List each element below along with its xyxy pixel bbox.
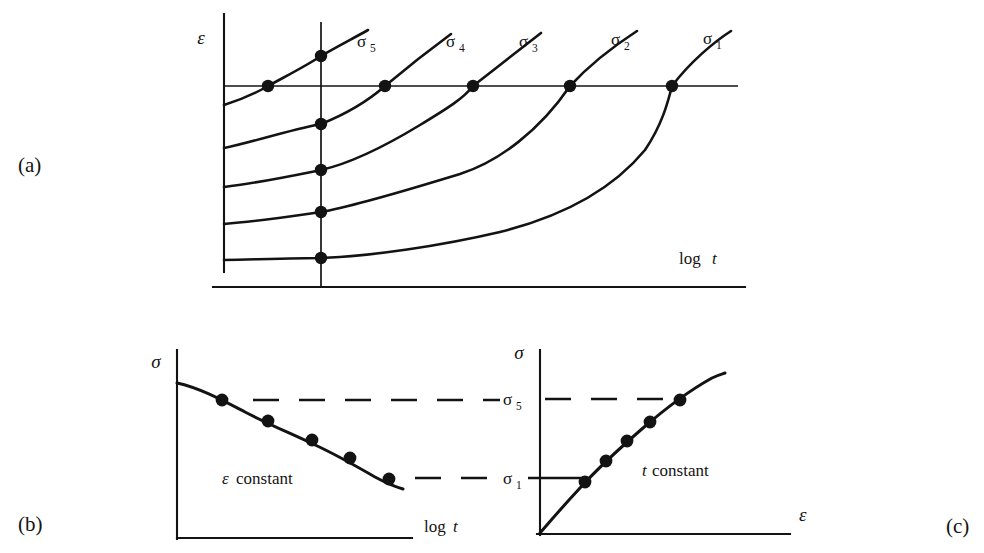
panel-c-marker-sigma3	[621, 435, 634, 448]
panel-c-marker-sigma2	[600, 455, 613, 468]
panel-b-marker-5	[383, 473, 396, 486]
panel-c-y-axis-label: σ	[514, 342, 524, 363]
panel-c-level-label-sigma5-sym: σ	[503, 390, 512, 409]
panel-b-y-axis-label: σ	[151, 351, 161, 372]
panel-b-marker-4	[344, 452, 357, 465]
panel-c-level-label-sigma1-sub: 1	[516, 479, 522, 491]
panel-a-curve-label-sigma1-sym: σ	[703, 29, 712, 48]
panel-b-annotation-text: constant	[236, 469, 293, 488]
panel-b-marker-1	[216, 394, 229, 407]
panel-a-marker-time-sigma4	[315, 118, 327, 130]
panel-a-marker-time-sigma3	[315, 164, 327, 176]
panel-c-annotation-text: constant	[652, 461, 709, 480]
panel-b-annotation-symbol: ε	[222, 469, 229, 488]
panel-c-x-axis-label: ε	[799, 504, 807, 525]
panel-b-marker-3	[306, 434, 319, 447]
panel-a-curve-label-sigma5-sym: σ	[357, 32, 366, 51]
panel-c-level-label-sigma1-sym: σ	[503, 469, 512, 488]
panel-a-curve-label-sigma4-sub: 4	[459, 42, 465, 54]
panel-a-marker-time-sigma2	[315, 206, 327, 218]
panel-a-marker-strain-sigma3	[467, 80, 479, 92]
panel-a-marker-strain-sigma5	[262, 80, 274, 92]
panel-a-marker-time-sigma5	[315, 50, 327, 62]
panel-a-curve-label-sigma3-sub: 3	[532, 42, 538, 54]
figure-root: ε log t σ 5 σ 4 σ 3 σ 2 σ 1 (a)	[0, 0, 984, 553]
panel-a-marker-strain-sigma1	[666, 80, 678, 92]
panel-c-label: (c)	[946, 514, 969, 538]
panel-a-y-axis-label: ε	[197, 27, 205, 48]
panel-a-curve-label-sigma3-sym: σ	[519, 32, 528, 51]
panel-a-curve-label-sigma2-sub: 2	[624, 40, 630, 52]
figure-background	[0, 0, 984, 553]
panel-b-marker-2	[262, 415, 275, 428]
panel-a-marker-strain-sigma2	[564, 80, 576, 92]
panel-c-marker-sigma5	[674, 394, 687, 407]
panel-b-label: (b)	[18, 512, 43, 536]
panel-a-curve-label-sigma5-sub: 5	[370, 42, 376, 54]
panel-a-label: (a)	[18, 153, 41, 177]
panel-c-level-label-sigma5-sub: 5	[516, 400, 522, 412]
panel-a-curve-label-sigma4-sym: σ	[446, 32, 455, 51]
panel-b-x-axis-label-prefix: log	[424, 517, 446, 536]
panel-b-x-axis-label: log t	[424, 517, 459, 536]
panel-a-marker-time-sigma1	[315, 252, 327, 264]
panel-c-marker-sigma4	[644, 416, 657, 429]
panel-a-x-axis-label-prefix: log	[679, 249, 701, 268]
panel-a-marker-strain-sigma4	[379, 80, 391, 92]
panel-a-curve-label-sigma2-sym: σ	[611, 30, 620, 49]
panel-a-x-axis-label: log t	[679, 249, 718, 268]
panel-c-annotation: t constant	[642, 461, 709, 480]
creep-figure-svg: ε log t σ 5 σ 4 σ 3 σ 2 σ 1 (a)	[0, 0, 984, 553]
panel-a-curve-label-sigma1-sub: 1	[716, 39, 722, 51]
